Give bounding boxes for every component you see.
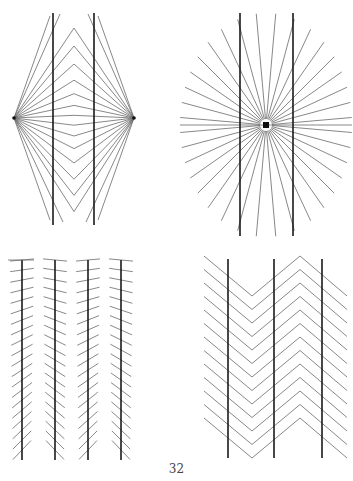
figure-bottom-left-zollner [8, 259, 133, 460]
figure-bottom-right-zigzag [204, 256, 347, 458]
figure-top-right-hering [180, 13, 352, 236]
page-number: 32 [0, 462, 353, 476]
figure-top-left-wundt [12, 13, 136, 225]
illusion-figures [0, 0, 353, 481]
